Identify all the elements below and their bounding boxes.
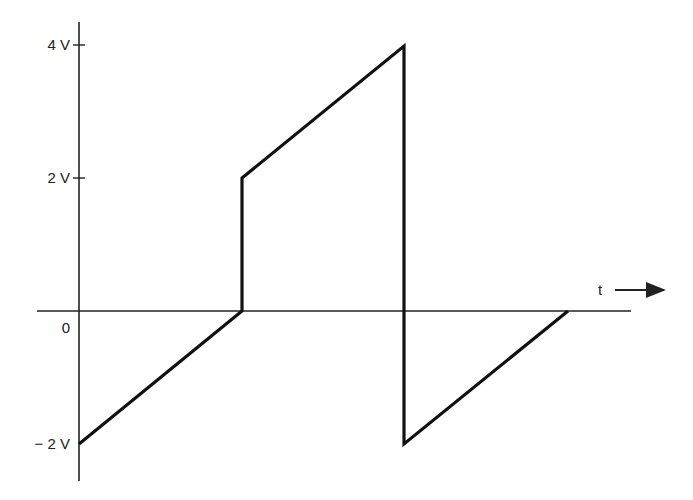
label-neg2v: − 2 V [35, 435, 70, 452]
label-2v: 2 V [47, 169, 70, 186]
label-0: 0 [62, 319, 70, 336]
diagram-canvas: 4 V 2 V 0 − 2 V t [0, 0, 693, 500]
waveform-line [79, 46, 568, 444]
waveform-diagram: 4 V 2 V 0 − 2 V t [0, 0, 693, 500]
t-axis-label: t [598, 281, 603, 298]
label-4v: 4 V [47, 36, 70, 53]
